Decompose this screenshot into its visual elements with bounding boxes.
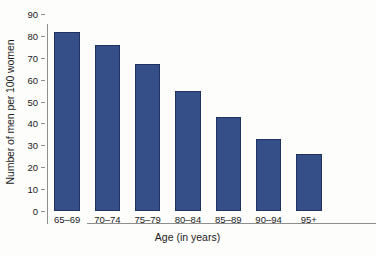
x-axis-tick-label: 95+	[289, 214, 329, 225]
x-axis-title: Age (in years)	[47, 231, 328, 243]
x-axis-tick-label: 85–89	[208, 214, 248, 225]
x-axis-tick-label: 90–94	[248, 214, 288, 225]
x-axis-tick-label: 80–84	[168, 214, 208, 225]
x-axis-tick-label: 70–74	[87, 214, 127, 225]
bar	[95, 45, 120, 211]
bar	[216, 117, 241, 211]
bar	[296, 154, 321, 211]
bar	[54, 32, 79, 211]
bar	[256, 139, 281, 211]
bar	[135, 64, 160, 211]
bar	[175, 91, 200, 211]
x-axis-tick-label: 65–69	[47, 214, 87, 225]
x-axis-tick-label: 75–79	[128, 214, 168, 225]
